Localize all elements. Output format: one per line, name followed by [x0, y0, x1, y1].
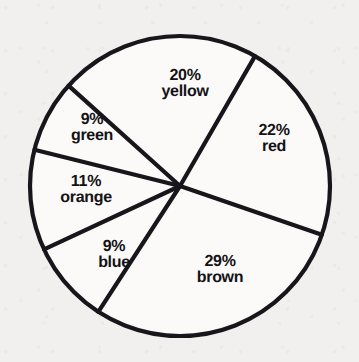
- slice-label-orange: 11% orange: [60, 174, 112, 207]
- slice-name-red: red: [258, 139, 289, 155]
- slice-label-green: 9% green: [71, 112, 113, 145]
- slice-label-yellow: 20% yellow: [161, 68, 208, 101]
- slice-name-yellow: yellow: [161, 84, 208, 100]
- slice-label-blue: 9% blue: [98, 239, 130, 272]
- slice-name-brown: brown: [197, 270, 244, 286]
- slice-percent-red: 22%: [258, 123, 289, 139]
- slice-percent-yellow: 20%: [161, 68, 208, 84]
- slice-label-brown: 29% brown: [197, 254, 244, 287]
- slice-name-blue: blue: [98, 255, 130, 271]
- pie-chart-figure: 20% yellow 22% red 29% brown 9% blue 11%…: [0, 0, 359, 362]
- pie-chart-svg: [0, 0, 359, 362]
- slice-percent-orange: 11%: [60, 174, 112, 190]
- slice-percent-brown: 29%: [197, 254, 244, 270]
- slice-percent-blue: 9%: [98, 239, 130, 255]
- slice-percent-green: 9%: [71, 112, 113, 128]
- slice-name-green: green: [71, 128, 113, 144]
- slice-name-orange: orange: [60, 190, 112, 206]
- slice-label-red: 22% red: [258, 123, 289, 156]
